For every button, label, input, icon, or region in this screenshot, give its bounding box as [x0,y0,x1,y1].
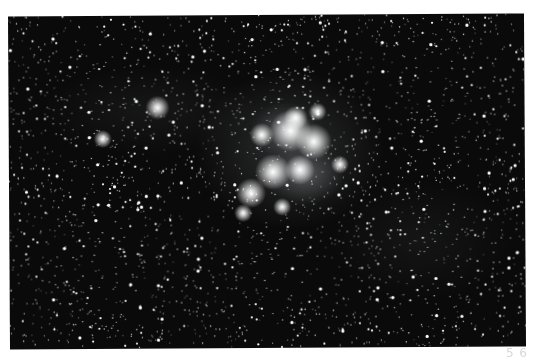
image-caption: 5 6 [506,346,528,360]
star-field [8,13,526,349]
astrophoto-pleiades [8,13,526,349]
